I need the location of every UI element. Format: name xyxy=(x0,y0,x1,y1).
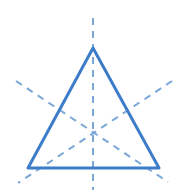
triangle-symmetry-svg xyxy=(0,0,184,192)
symmetry-axes-group xyxy=(16,18,172,190)
triangle-symmetry-figure xyxy=(0,0,184,192)
